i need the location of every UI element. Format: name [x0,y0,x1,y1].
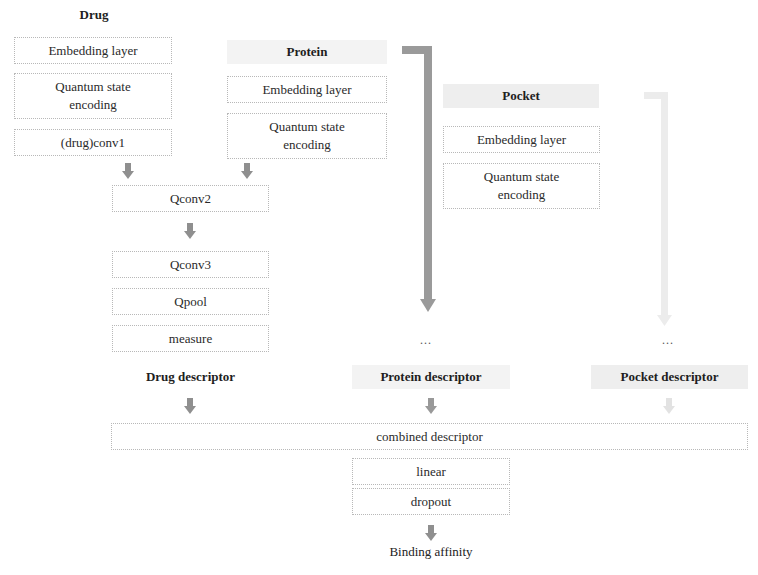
pocket-embedding-layer: Embedding layer [443,126,600,153]
protein-ellipsis: ... [420,333,432,348]
pocket-bypass-arrow-icon [642,90,676,330]
linear-layer: linear [352,458,510,485]
qconv3-layer: Qconv3 [112,251,269,278]
pocket-quantum-state-encoding: Quantum state encoding [443,163,600,209]
protein-header: Protein [227,40,387,64]
qpool-layer: Qpool [112,288,269,315]
drug-header: Drug [14,4,174,26]
pocket-header: Pocket [443,84,599,108]
drug-descriptor: Drug descriptor [112,365,269,389]
drug-embedding-layer: Embedding layer [14,37,172,64]
binding-affinity-output: Binding affinity [352,544,510,560]
combined-descriptor: combined descriptor [111,423,748,450]
drug-conv1: (drug)conv1 [14,129,172,156]
protein-bypass-arrow-icon [400,44,440,316]
drug-quantum-state-encoding: Quantum state encoding [14,73,172,119]
measure-layer: measure [112,325,269,352]
protein-quantum-state-encoding: Quantum state encoding [227,113,387,159]
down-arrow-icon [122,163,134,179]
down-arrow-icon [241,163,253,179]
down-arrow-icon [663,398,675,414]
down-arrow-icon [184,398,196,414]
down-arrow-icon [184,223,196,239]
protein-embedding-layer: Embedding layer [227,76,387,103]
down-arrow-icon [425,525,437,541]
pocket-descriptor: Pocket descriptor [591,365,748,389]
down-arrow-icon [425,398,437,414]
protein-descriptor: Protein descriptor [352,365,510,389]
pocket-ellipsis: ... [662,333,674,348]
qconv2-layer: Qconv2 [112,185,269,212]
dropout-layer: dropout [352,488,510,515]
